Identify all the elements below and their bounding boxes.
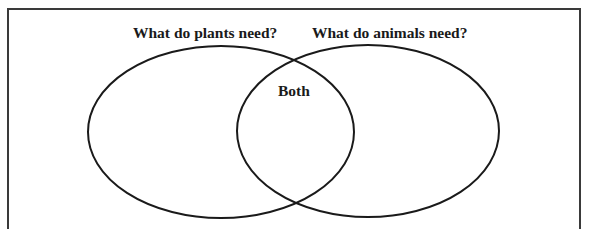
plants-needs-label: What do plants need? <box>133 24 277 42</box>
animals-needs-label: What do animals need? <box>312 24 467 42</box>
both-label: Both <box>278 82 310 100</box>
venn-diagram <box>0 0 590 229</box>
animals-circle <box>237 45 499 217</box>
plants-circle <box>88 46 354 218</box>
